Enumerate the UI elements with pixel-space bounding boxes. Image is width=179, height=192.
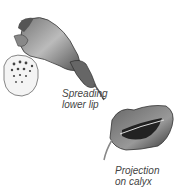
calyx-drawing [104, 106, 173, 161]
label-line: on calyx [115, 176, 159, 187]
label-line: Projection [115, 165, 159, 176]
lower-lip-label: Spreading lower lip [62, 88, 108, 110]
label-line: lower lip [62, 99, 108, 110]
label-line: Spreading [62, 88, 108, 99]
calyx-label: Projection on calyx [115, 165, 159, 187]
